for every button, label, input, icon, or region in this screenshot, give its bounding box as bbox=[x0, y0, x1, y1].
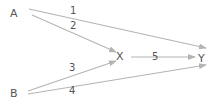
edge-a-to-x: 2 bbox=[32, 15, 116, 52]
edge-label-5: 5 bbox=[152, 51, 158, 62]
node-b: B bbox=[10, 87, 18, 100]
edge-line-4 bbox=[28, 65, 206, 94]
flow-diagram: 1 2 3 4 5 A B X Y bbox=[0, 0, 219, 105]
node-y: Y bbox=[197, 52, 205, 65]
edge-label-3: 3 bbox=[69, 62, 75, 73]
edge-label-2: 2 bbox=[70, 20, 76, 31]
node-x: X bbox=[116, 50, 124, 63]
edge-x-to-y: 5 bbox=[131, 51, 195, 62]
edge-label-1: 1 bbox=[70, 5, 76, 16]
edge-label-4: 4 bbox=[69, 85, 75, 96]
edge-b-to-y: 4 bbox=[28, 65, 206, 96]
edge-a-to-y: 1 bbox=[29, 5, 206, 48]
edge-line-1 bbox=[29, 9, 206, 48]
node-a: A bbox=[10, 7, 18, 20]
